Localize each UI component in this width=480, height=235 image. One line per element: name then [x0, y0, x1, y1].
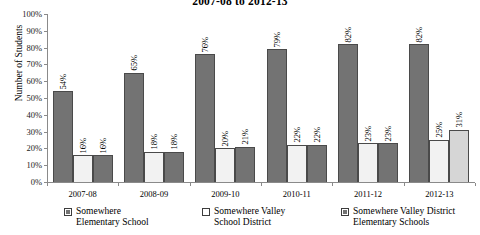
- bar[interactable]: 21%: [235, 147, 255, 182]
- bar-group: 82%25%31%: [409, 14, 469, 182]
- bar-group-bars: 76%20%21%: [195, 14, 255, 182]
- bar-group: 76%20%21%: [195, 14, 255, 182]
- y-axis-tick-label: 70%: [2, 59, 42, 69]
- y-axis-line: [47, 14, 48, 183]
- bar-group: 82%23%23%: [338, 14, 398, 182]
- legend-swatch-icon: [202, 208, 210, 216]
- x-axis-label: 2012-13: [425, 189, 453, 199]
- bar[interactable]: 18%: [144, 152, 164, 182]
- y-axis-tick-mark: [44, 48, 47, 49]
- bar-group-bars: 65%18%18%: [124, 14, 184, 182]
- y-axis-tick-label: 10%: [2, 160, 42, 170]
- legend-label: SomewhereElementary School: [76, 206, 149, 228]
- y-axis-tick-label: 20%: [2, 143, 42, 153]
- x-axis-tick-mark: [404, 183, 405, 186]
- x-axis-label: 2008-09: [140, 189, 168, 199]
- bar[interactable]: 23%: [378, 143, 398, 182]
- bar-value-label: 25%: [435, 122, 444, 138]
- y-axis-tick-label: 0%: [2, 177, 42, 187]
- bar[interactable]: 79%: [267, 49, 287, 182]
- y-axis-tick-mark: [44, 31, 47, 32]
- legend-item[interactable]: Somewhere Valley DistrictElementary Scho…: [341, 206, 455, 228]
- y-axis-tick-label: 50%: [2, 93, 42, 103]
- y-axis-tick-mark: [44, 115, 47, 116]
- x-axis-tick-mark: [118, 183, 119, 186]
- bar-group-bars: 54%16%16%: [53, 14, 113, 182]
- legend-item[interactable]: Somewhere ValleySchool District: [202, 206, 285, 228]
- bar[interactable]: 25%: [429, 140, 449, 182]
- y-axis-tick-mark: [44, 132, 47, 133]
- x-axis-label: 2007-08: [68, 189, 96, 199]
- bar[interactable]: 82%: [409, 44, 429, 182]
- y-axis-tick-mark: [44, 64, 47, 65]
- y-axis-tick-label: 30%: [2, 127, 42, 137]
- bar-group-bars: 82%23%23%: [338, 14, 398, 182]
- legend-swatch-icon: [341, 208, 349, 216]
- bar-group-bars: 82%25%31%: [409, 14, 469, 182]
- x-axis-label: 2011-12: [354, 189, 382, 199]
- y-axis-tick-label: 60%: [2, 76, 42, 86]
- y-axis-tick-label: 90%: [2, 26, 42, 36]
- bar[interactable]: 23%: [358, 143, 378, 182]
- bar[interactable]: 22%: [287, 145, 307, 182]
- legend-label: Somewhere ValleySchool District: [214, 206, 285, 228]
- x-axis-tick-mark: [261, 183, 262, 186]
- bar[interactable]: 54%: [53, 91, 73, 182]
- x-axis-tick-mark: [47, 183, 48, 186]
- bar-value-label: 82%: [344, 27, 353, 43]
- bar-value-label: 22%: [312, 127, 321, 143]
- x-axis-tick-mark: [332, 183, 333, 186]
- legend-item[interactable]: SomewhereElementary School: [64, 206, 149, 228]
- bar-value-label: 16%: [98, 138, 107, 154]
- y-axis-tick-mark: [44, 98, 47, 99]
- bar-value-label: 21%: [241, 129, 250, 145]
- x-axis-label: 2009-10: [211, 189, 239, 199]
- legend-label-line1: Somewhere Valley: [214, 206, 285, 217]
- bar[interactable]: 22%: [307, 145, 327, 182]
- bar-value-label: 82%: [415, 27, 424, 43]
- bar-value-label: 18%: [170, 134, 179, 150]
- bar-value-label: 76%: [201, 37, 210, 53]
- bar-value-label: 16%: [78, 138, 87, 154]
- x-axis-tick-mark: [190, 183, 191, 186]
- legend-swatch-icon: [64, 208, 72, 216]
- chart-title: 2007-08 to 2012-13: [0, 0, 480, 7]
- bar-value-label: 22%: [292, 127, 301, 143]
- bar[interactable]: 31%: [449, 130, 469, 182]
- bar-value-label: 79%: [272, 32, 281, 48]
- bar[interactable]: 16%: [93, 155, 113, 182]
- bar-value-label: 54%: [58, 74, 67, 90]
- y-axis-tick-mark: [44, 14, 47, 15]
- bar-value-label: 20%: [221, 131, 230, 147]
- bar-value-label: 18%: [150, 134, 159, 150]
- y-axis-tick-mark: [44, 148, 47, 149]
- bar[interactable]: 18%: [164, 152, 184, 182]
- plot-area: 0%10%20%30%40%50%60%70%80%90%100% 54%16%…: [47, 14, 475, 183]
- legend-label-line2: Elementary School: [76, 217, 149, 228]
- bar[interactable]: 20%: [215, 148, 235, 182]
- x-axis-tick-mark: [475, 183, 476, 186]
- y-axis-tick-label: 40%: [2, 110, 42, 120]
- bar-group-bars: 79%22%22%: [267, 14, 327, 182]
- bar[interactable]: 16%: [73, 155, 93, 182]
- legend-label-line2: Elementary Schools: [353, 217, 455, 228]
- x-axis-label: 2010-11: [283, 189, 311, 199]
- bar-group: 54%16%16%: [53, 14, 113, 182]
- chart-legend: SomewhereElementary SchoolSomewhere Vall…: [0, 203, 480, 235]
- bar-group: 65%18%18%: [124, 14, 184, 182]
- legend-label: Somewhere Valley DistrictElementary Scho…: [353, 206, 455, 228]
- bar-group: 79%22%22%: [267, 14, 327, 182]
- y-axis-tick-mark: [44, 81, 47, 82]
- bar-value-label: 23%: [364, 126, 373, 142]
- legend-label-line1: Somewhere Valley District: [353, 206, 455, 217]
- bar-value-label: 23%: [384, 126, 393, 142]
- bar[interactable]: 76%: [195, 54, 215, 182]
- chart-container: 2007-08 to 2012-13 Number of Students 0%…: [0, 0, 480, 235]
- bar-value-label: 65%: [130, 55, 139, 71]
- y-axis-tick-label: 100%: [2, 9, 42, 19]
- y-axis-tick-mark: [44, 165, 47, 166]
- bar-value-label: 31%: [455, 112, 464, 128]
- bar[interactable]: 82%: [338, 44, 358, 182]
- bar[interactable]: 65%: [124, 73, 144, 182]
- legend-label-line2: School District: [214, 217, 285, 228]
